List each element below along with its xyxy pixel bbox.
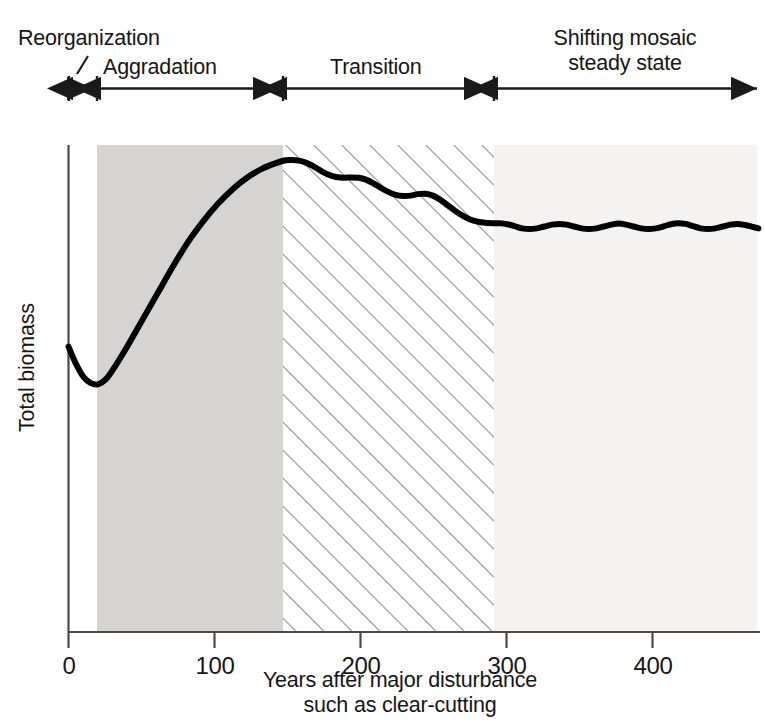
x-tick-label-0: 0 (38, 652, 100, 680)
chart-canvas (0, 0, 765, 726)
band-shifting-mosaic (494, 145, 757, 632)
x-axis-title-line1: Years after major disturbance (263, 668, 537, 692)
phase-label-shifting-line1: Shifting mosaic (554, 26, 697, 50)
phase-label-transition: Transition (330, 55, 422, 80)
x-tick-label-400: 400 (622, 652, 684, 680)
phase-label-shifting-line2: steady state (568, 51, 682, 75)
band-aggradation (97, 145, 283, 632)
phase-label-shifting-mosaic: Shifting mosaic steady state (520, 26, 730, 76)
y-axis-title: Total biomass (15, 268, 40, 468)
forest-succession-biomass-chart: Reorganization Aggradation Transition Sh… (0, 0, 765, 726)
x-axis-title: Years after major disturbance such as cl… (200, 668, 600, 718)
x-axis-title-line2: such as clear-cutting (304, 693, 497, 717)
phase-label-reorganization: Reorganization (18, 26, 160, 51)
phase-bands (68, 145, 757, 632)
reorganization-leader-line (77, 56, 88, 74)
phase-label-aggradation: Aggradation (103, 55, 217, 80)
band-reorganization (68, 145, 97, 632)
